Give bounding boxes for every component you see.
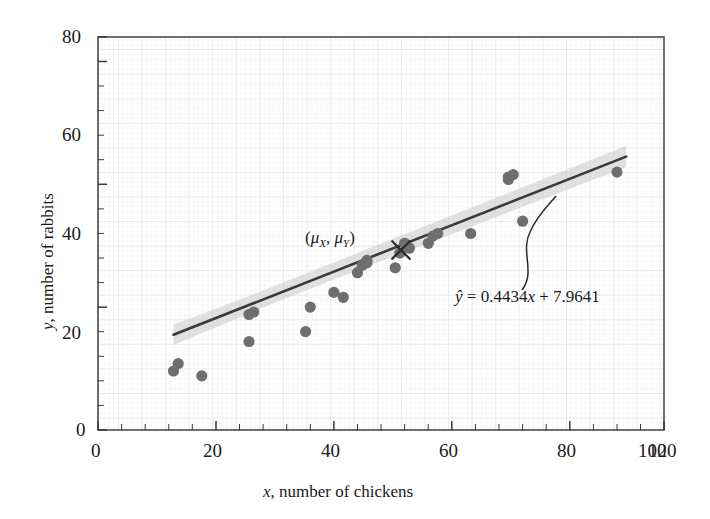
data-point — [243, 336, 254, 347]
data-point — [196, 370, 207, 381]
y-axis-title-rest: , number of rabbits — [38, 193, 57, 322]
regression-equation-label: ŷ = 0.4434x + 7.9641 — [455, 287, 600, 307]
equation-equals: = — [463, 287, 481, 306]
data-point — [432, 228, 443, 239]
mu-x-symbol: μ — [311, 228, 320, 247]
data-point — [517, 216, 528, 227]
x-tick-label-40: 40 — [321, 440, 340, 462]
data-point — [361, 255, 372, 266]
x-axis-title-rest: , number of chickens — [271, 482, 414, 501]
x-axis-title-var: x — [263, 482, 271, 501]
y-tick-label-80: 80 — [62, 26, 81, 48]
data-point — [508, 169, 519, 180]
data-point — [305, 302, 316, 313]
data-point — [300, 326, 311, 337]
y-tick-label-40: 40 — [62, 223, 81, 245]
data-point — [611, 167, 622, 178]
x-tick-label-80: 80 — [557, 440, 576, 462]
data-point — [173, 358, 184, 369]
x-tick-label-60: 60 — [439, 440, 458, 462]
y-hat-symbol: ŷ — [455, 287, 463, 306]
data-point — [390, 262, 401, 273]
x-tick-label-0: 0 — [91, 440, 101, 462]
equation-x-var: x — [527, 287, 535, 306]
x-tick-label-120: 120 — [648, 440, 677, 462]
centroid-label: (μX, μY) — [305, 228, 355, 249]
y-tick-label-0: 0 — [76, 419, 86, 441]
y-axis-title: y, number of rabbits — [38, 193, 58, 330]
equation-slope: 0.4434 — [481, 287, 528, 306]
centroid-close-paren: ) — [349, 228, 355, 247]
equation-intercept: + 7.9641 — [535, 287, 600, 306]
data-point — [465, 228, 476, 239]
x-tick-label-20: 20 — [203, 440, 222, 462]
y-axis-title-var: y — [38, 322, 57, 330]
mu-x-subscript: X — [319, 237, 326, 249]
scatter-plot-figure — [0, 0, 710, 519]
mu-y-symbol: μ — [334, 228, 343, 247]
y-tick-label-20: 20 — [62, 322, 81, 344]
plot-grid — [98, 37, 664, 430]
data-point — [248, 306, 259, 317]
x-axis-title: x, number of chickens — [263, 482, 413, 502]
data-point — [338, 292, 349, 303]
y-tick-label-60: 60 — [62, 124, 81, 146]
